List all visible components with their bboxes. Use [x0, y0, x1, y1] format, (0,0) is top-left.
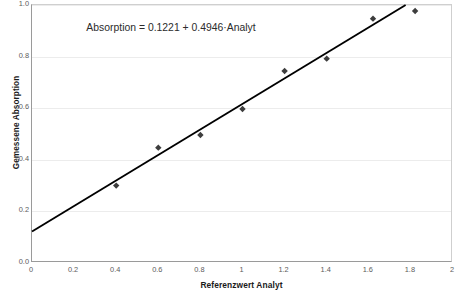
- x-tick-label: 1.8: [395, 266, 425, 274]
- y-axis-tick-labels: 0.00.20.40.60.81.0: [0, 0, 29, 299]
- y-tick-label: 0.6: [3, 103, 29, 111]
- x-axis-title: Referenzwert Analyt: [31, 280, 452, 290]
- x-tick-label: 0.2: [58, 266, 88, 274]
- data-point: [370, 15, 376, 21]
- regression-line-layer: [32, 5, 406, 231]
- x-tick-label: 0: [16, 266, 46, 274]
- x-tick-label: 1.6: [353, 266, 383, 274]
- x-tick-label: 2: [437, 266, 463, 274]
- scatter-chart: Gemessene Absorption 0.00.20.40.60.81.0 …: [0, 0, 463, 299]
- data-point: [113, 182, 119, 188]
- plot-area: [31, 4, 452, 262]
- data-point: [155, 144, 161, 150]
- x-tick-label: 1.2: [269, 266, 299, 274]
- y-tick-label: 0.8: [3, 52, 29, 60]
- y-tick-label: 0.0: [3, 258, 29, 266]
- y-tick-label: 0.2: [3, 206, 29, 214]
- x-tick-label: 1: [227, 266, 257, 274]
- x-tick-label: 1.4: [311, 266, 341, 274]
- data-point: [412, 8, 418, 14]
- regression-line: [32, 5, 406, 231]
- x-tick-label: 0.4: [100, 266, 130, 274]
- plot-svg: [32, 5, 453, 263]
- y-tick-label: 0.4: [3, 155, 29, 163]
- data-point-layer: [113, 8, 418, 189]
- x-tick-label: 0.8: [184, 266, 214, 274]
- data-point: [197, 132, 203, 138]
- regression-equation-label: Absorption = 0.1221 + 0.4946·Analyt: [46, 22, 296, 33]
- data-point: [281, 68, 287, 74]
- x-tick-label: 0.6: [142, 266, 172, 274]
- data-point: [239, 106, 245, 112]
- y-tick-label: 1.0: [3, 0, 29, 8]
- data-point: [324, 55, 330, 61]
- x-axis-tick-labels: 00.20.40.60.811.21.41.61.82: [31, 266, 452, 278]
